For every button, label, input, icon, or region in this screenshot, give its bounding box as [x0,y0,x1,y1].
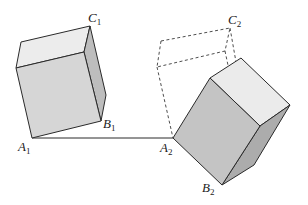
label-c1: C1 [88,10,101,27]
box-position-2 [173,58,290,185]
label-c2: C2 [228,12,241,29]
label-b2: B2 [202,180,214,197]
box-rotation-diagram: C1 B1 A1 C2 A2 B2 [0,0,308,205]
label-b1: B1 [103,116,115,133]
box-position-1 [16,26,106,138]
label-a1: A1 [17,139,30,156]
label-a2: A2 [159,140,172,157]
